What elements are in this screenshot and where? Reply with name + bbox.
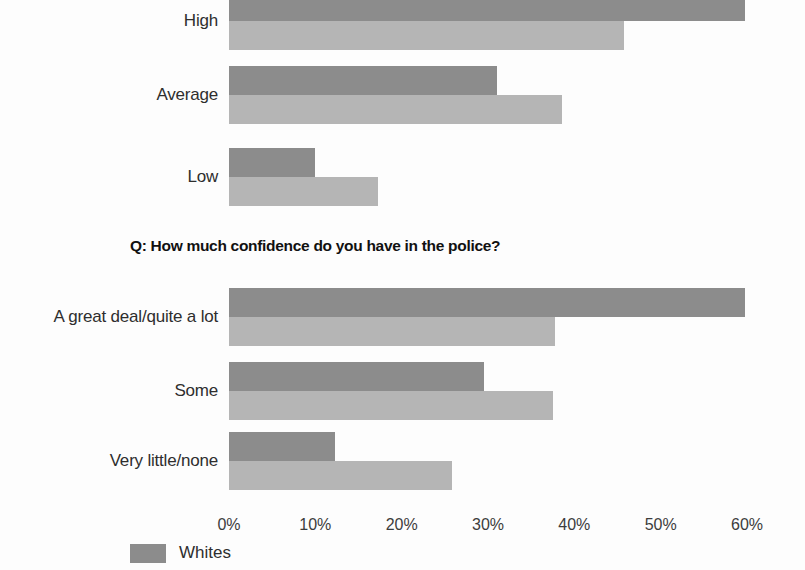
x-tick-50pct: 50% (645, 514, 677, 536)
bar-blacks (229, 461, 452, 490)
bar-group (229, 66, 562, 124)
bar-whites (229, 148, 315, 177)
bar-blacks (229, 177, 378, 206)
category-label-top-1: Average (0, 85, 218, 105)
x-tick-20pct: 20% (386, 514, 418, 536)
bar-blacks (229, 317, 555, 346)
x-tick-0pct: 0% (217, 514, 240, 536)
x-tick-10pct: 10% (299, 514, 331, 536)
bar-whites (229, 362, 484, 391)
x-tick-40pct: 40% (558, 514, 590, 536)
bar-group (229, 148, 378, 206)
legend-swatch-whites (130, 544, 166, 563)
bar-whites (229, 0, 745, 21)
category-label-top-0: High (0, 11, 218, 31)
bar-group (229, 288, 745, 346)
chart-page: HighAverageLow Q: How much confidence do… (0, 0, 805, 570)
bar-blacks (229, 21, 624, 50)
bar-group (229, 432, 452, 490)
x-axis: 0%10%20%30%40%50%60% (0, 514, 805, 538)
bar-whites (229, 288, 745, 317)
bar-group (229, 362, 553, 420)
bar-blacks (229, 391, 553, 420)
bar-blacks (229, 95, 562, 124)
category-label-top-2: Low (0, 167, 218, 187)
bar-whites (229, 432, 335, 461)
chart-title-police-confidence: Q: How much confidence do you have in th… (130, 237, 500, 255)
legend-label-whites: Whites (179, 543, 231, 563)
category-label-bottom-1: Some (0, 381, 218, 401)
category-label-bottom-0: A great deal/quite a lot (0, 307, 218, 327)
x-tick-60pct: 60% (731, 514, 763, 536)
chart-legend: Whites (130, 543, 231, 563)
category-label-bottom-2: Very little/none (0, 451, 218, 471)
x-tick-30pct: 30% (472, 514, 504, 536)
bar-whites (229, 66, 497, 95)
bar-group (229, 0, 745, 50)
